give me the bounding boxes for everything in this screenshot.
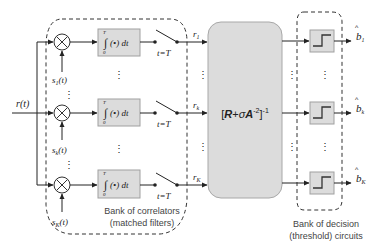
svg-text:⋮: ⋮: [198, 141, 208, 152]
svg-text:r1: r1: [193, 29, 200, 40]
svg-text:(•) dt: (•) dt: [110, 108, 129, 118]
input-label: r(t): [16, 98, 30, 110]
decision-bank-caption-1: Bank of decision: [293, 219, 359, 229]
sample-switch-icon: [156, 173, 177, 185]
svg-text:⋮: ⋮: [287, 141, 297, 152]
svg-text:bK: bK: [356, 172, 367, 185]
decision-row-1: b1 ^: [282, 24, 365, 52]
correlator-bank-caption-2: (matched filters): [110, 218, 175, 228]
decision-row-K: bK ^: [282, 166, 367, 194]
sample-switch-icon: [156, 30, 177, 42]
svg-text:t=T: t=T: [157, 48, 172, 58]
svg-text:t=T: t=T: [157, 191, 172, 201]
svg-text:s1(t): s1(t): [52, 75, 67, 86]
svg-text:t=T: t=T: [157, 119, 172, 129]
svg-text:⋮: ⋮: [320, 141, 330, 152]
decision-row-k: bk ^: [282, 96, 365, 124]
svg-text:rK: rK: [193, 172, 202, 183]
svg-text:∫: ∫: [103, 106, 108, 120]
multiplier-icon: [54, 105, 70, 121]
svg-text:⋮: ⋮: [64, 89, 74, 100]
svg-text:(•) dt: (•) dt: [110, 180, 129, 190]
multiplier-icon: [54, 177, 70, 193]
svg-text:⋮: ⋮: [320, 69, 330, 80]
svg-text:∫: ∫: [103, 36, 108, 50]
detector-diagram: r(t) s1(t) ∫ T 0 (•) dt t=T r1 ⋮ ⋮ ⋮ ⋮ ⋮: [0, 0, 376, 249]
svg-text:⋮: ⋮: [198, 69, 208, 80]
svg-text:b1: b1: [356, 30, 365, 43]
svg-text:sk(t): sk(t): [52, 145, 67, 156]
svg-text:(•) dt: (•) dt: [110, 38, 129, 48]
svg-text:⋮: ⋮: [114, 69, 124, 80]
sample-switch-icon: [156, 101, 177, 113]
svg-text:bk: bk: [356, 102, 365, 115]
svg-text:∫: ∫: [103, 178, 108, 192]
svg-text:⋮: ⋮: [287, 69, 297, 80]
svg-text:⋮: ⋮: [64, 159, 74, 170]
correlator-bank-caption-1: Bank of correlators: [104, 206, 180, 216]
multiplier-icon: [54, 34, 70, 50]
svg-text:⋮: ⋮: [114, 143, 124, 154]
input-signal: r(t): [12, 42, 37, 185]
decision-bank-caption-2: (threshold) circuits: [289, 231, 363, 241]
svg-text:rk: rk: [193, 100, 200, 111]
svg-text:sK(t): sK(t): [52, 217, 68, 228]
decorrelator-label: [R+σA-2]-1: [221, 107, 269, 120]
svg-text:r(t): r(t): [16, 98, 30, 110]
